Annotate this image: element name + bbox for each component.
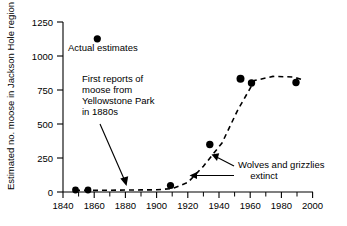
y-tick-label-250: 250: [37, 153, 53, 164]
x-axis-major-ticks: [63, 192, 313, 198]
annotation-first-reports-line1: First reports of: [82, 73, 144, 84]
annotation-wolves-line1: Wolves and grizzlies: [238, 159, 325, 170]
y-tick-label-500: 500: [37, 119, 53, 130]
annotation-first-reports-line4: in 1880s: [82, 106, 118, 117]
x-tick-label-1940: 1940: [208, 200, 229, 211]
chart-canvas: 1250 1000 750 500 250 0: [0, 0, 347, 226]
data-point-1999: [292, 79, 299, 86]
x-tick-label-1960: 1960: [240, 200, 261, 211]
y-tick-label-1250: 1250: [32, 17, 53, 28]
legend-label-actual-estimates: Actual estimates: [68, 42, 138, 53]
y-axis-title: Estimated no. moose in Jackson Hole regi…: [5, 2, 16, 190]
annotation-first-reports-line2: moose from: [82, 84, 132, 95]
annotation-wolves-line2: extinct: [250, 170, 278, 181]
annotation-wolves-arrow-diagonal: [212, 153, 235, 166]
moose-population-chart: 1250 1000 750 500 250 0: [0, 0, 347, 226]
annotation-wolves-arrow-horizontal: [190, 172, 235, 179]
annotation-first-reports-arrow: [100, 124, 128, 186]
data-point-1942: [206, 141, 213, 148]
x-tick-label-1880: 1880: [115, 200, 136, 211]
x-tick-label-1860: 1860: [84, 200, 105, 211]
x-tick-label-1980: 1980: [271, 200, 292, 211]
x-tick-label-2000: 2000: [302, 200, 323, 211]
x-tick-label-1900: 1900: [146, 200, 167, 211]
data-point-1970: [248, 79, 255, 86]
x-tick-label-1920: 1920: [177, 200, 198, 211]
data-point-1856: [85, 187, 92, 194]
data-point-1963: [237, 75, 245, 83]
y-tick-label-750: 750: [37, 85, 53, 96]
data-point-1909: [167, 182, 174, 189]
x-tick-label-1840: 1840: [52, 200, 73, 211]
data-point-1848: [72, 187, 79, 194]
y-axis-ticks: [57, 22, 63, 192]
annotation-first-reports-line3: Yellowstone Park: [82, 95, 155, 106]
y-tick-label-1000: 1000: [32, 51, 53, 62]
y-tick-label-0: 0: [48, 187, 53, 198]
